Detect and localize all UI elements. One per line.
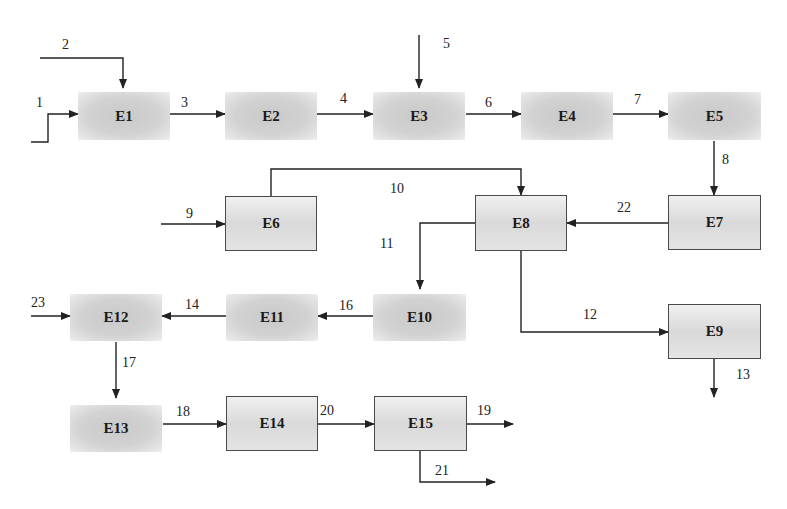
- stream-label-4: 4: [340, 92, 347, 106]
- unit-E9: E9: [668, 304, 761, 359]
- stream-label-2: 2: [62, 38, 69, 52]
- unit-E14: E14: [226, 396, 318, 451]
- unit-label: E2: [262, 108, 280, 125]
- stream-label-9: 9: [186, 207, 193, 221]
- unit-label: E12: [103, 309, 128, 326]
- stream-label-10: 10: [390, 182, 404, 196]
- stream-label-1: 1: [36, 96, 43, 110]
- unit-label: E8: [512, 215, 530, 232]
- stream-label-8: 8: [722, 153, 729, 167]
- stream-label-20: 20: [320, 404, 334, 418]
- unit-E8: E8: [475, 195, 567, 251]
- stream-label-18: 18: [176, 405, 190, 419]
- unit-label: E1: [115, 108, 133, 125]
- unit-E2: E2: [225, 92, 317, 140]
- unit-label: E5: [706, 108, 724, 125]
- stream-2-line: [40, 58, 123, 88]
- stream-label-6: 6: [485, 96, 492, 110]
- unit-label: E3: [410, 108, 428, 125]
- unit-E1: E1: [78, 92, 170, 140]
- stream-label-14: 14: [185, 298, 199, 312]
- process-flow-diagram: E1 E2 E3 E4 E5 E6 E7 E8 E9 E10 E11 E12 E…: [0, 0, 787, 509]
- unit-E6: E6: [225, 196, 317, 251]
- stream-label-17: 17: [122, 356, 136, 370]
- stream-label-7: 7: [634, 93, 641, 107]
- unit-label: E14: [259, 415, 284, 432]
- unit-label: E10: [407, 309, 432, 326]
- unit-E13: E13: [70, 405, 162, 452]
- stream-label-23: 23: [31, 296, 45, 310]
- unit-E10: E10: [373, 294, 466, 341]
- stream-label-12: 12: [583, 308, 597, 322]
- unit-E7: E7: [668, 195, 761, 250]
- unit-label: E13: [103, 420, 128, 437]
- unit-E11: E11: [226, 294, 318, 341]
- stream-1-line: [31, 114, 78, 142]
- stream-label-19: 19: [477, 404, 491, 418]
- unit-E15: E15: [374, 396, 467, 451]
- stream-21-line: [420, 451, 495, 482]
- unit-label: E15: [408, 415, 433, 432]
- stream-label-11: 11: [380, 237, 393, 251]
- unit-label: E7: [706, 214, 724, 231]
- unit-label: E11: [260, 309, 284, 326]
- unit-E3: E3: [373, 92, 465, 140]
- unit-E5: E5: [668, 92, 761, 140]
- unit-label: E6: [262, 215, 280, 232]
- unit-label: E4: [558, 108, 576, 125]
- unit-E4: E4: [521, 92, 613, 140]
- unit-E12: E12: [70, 294, 162, 341]
- stream-label-21: 21: [435, 464, 449, 478]
- unit-label: E9: [706, 323, 724, 340]
- stream-label-5: 5: [443, 37, 450, 51]
- stream-11-line: [420, 223, 475, 289]
- stream-label-16: 16: [339, 299, 353, 313]
- stream-label-3: 3: [181, 96, 188, 110]
- stream-label-13: 13: [736, 368, 750, 382]
- stream-label-22: 22: [617, 201, 631, 215]
